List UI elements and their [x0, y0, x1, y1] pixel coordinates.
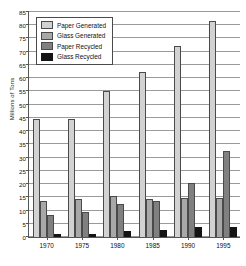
x-tick-label: 1995 [216, 242, 230, 249]
legend-swatch-icon [41, 32, 53, 40]
x-tick-mark [117, 237, 118, 240]
y-tick-label: 20 [19, 181, 26, 188]
chart-legend: Paper GeneratedGlass GeneratedPaper Recy… [36, 17, 113, 65]
x-tick-label: 1985 [146, 242, 160, 249]
y-tick-label: 10 [19, 207, 26, 214]
legend-swatch-icon [41, 53, 53, 61]
y-tick-label: 5 [23, 220, 26, 227]
legend-item: Glass Recycled [41, 53, 106, 61]
y-tick-label: 40 [19, 128, 26, 135]
legend-label: Paper Recycled [57, 43, 102, 50]
y-tick-label: 15 [19, 194, 26, 201]
x-tick-mark [188, 237, 189, 240]
y-tick-label: 75 [19, 35, 26, 42]
legend-item: Glass Generated [41, 32, 106, 40]
y-tick-label: 25 [19, 167, 26, 174]
legend-label: Glass Generated [57, 32, 105, 39]
x-tick-mark [153, 237, 154, 240]
bar-chart: Millions of Tons 05101520253035404550556… [0, 0, 246, 266]
legend-label: Paper Generated [57, 22, 106, 29]
y-tick-label: 60 [19, 75, 26, 82]
x-tick-label: 1970 [40, 242, 54, 249]
x-tick-label: 1980 [110, 242, 124, 249]
legend-item: Paper Recycled [41, 42, 106, 50]
y-tick-label: 85 [19, 9, 26, 16]
x-tick-mark [223, 237, 224, 240]
y-tick-label: 35 [19, 141, 26, 148]
y-tick-label: 55 [19, 88, 26, 95]
legend-swatch-icon [41, 21, 53, 29]
y-tick-label: 0 [23, 234, 26, 241]
x-tick-mark [82, 237, 83, 240]
y-tick-label: 45 [19, 114, 26, 121]
legend-label: Glass Recycled [57, 53, 101, 60]
x-tick-label: 1990 [181, 242, 195, 249]
y-axis-title: Millions of Tons [9, 51, 15, 147]
y-tick-label: 30 [19, 154, 26, 161]
legend-swatch-icon [41, 42, 53, 50]
x-tick-label: 1975 [75, 242, 89, 249]
y-tick-label: 80 [19, 22, 26, 29]
y-tick-label: 50 [19, 101, 26, 108]
y-tick-label: 70 [19, 48, 26, 55]
legend-item: Paper Generated [41, 21, 106, 29]
y-tick-label: 65 [19, 61, 26, 68]
x-tick-mark [47, 237, 48, 240]
